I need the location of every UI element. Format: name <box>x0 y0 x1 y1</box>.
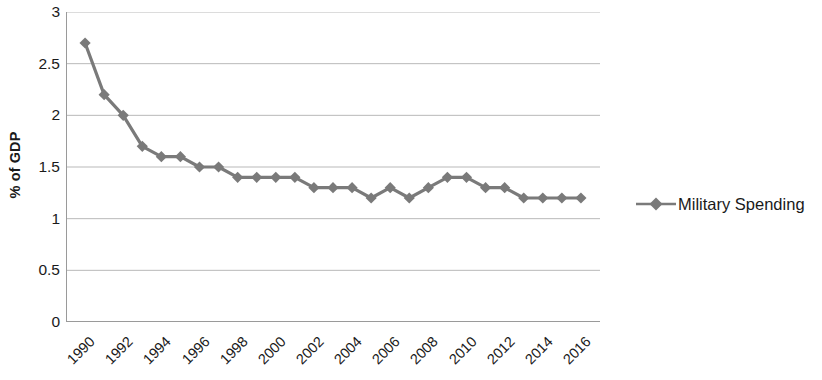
y-axis-tick-label: 0.5 <box>4 263 60 279</box>
legend-line-diamond-icon <box>634 196 678 212</box>
data-point-marker <box>556 192 567 203</box>
data-point-marker <box>79 37 90 48</box>
x-axis-tick-label: 1992 <box>103 334 136 367</box>
series-military-spending <box>79 37 586 203</box>
data-point-marker <box>537 192 548 203</box>
x-axis-tick-label: 1994 <box>141 334 174 367</box>
series-line <box>85 43 581 198</box>
data-point-marker <box>327 182 338 193</box>
y-axis-tick-label: 1 <box>4 211 60 227</box>
plot-area <box>66 12 600 322</box>
data-point-marker <box>251 172 262 183</box>
y-axis-tick-label: 3 <box>4 4 60 20</box>
x-axis-tick-label: 1990 <box>65 334 98 367</box>
x-axis-tick-label: 2004 <box>332 334 365 367</box>
x-axis-tick-label: 2000 <box>255 334 288 367</box>
legend-marker-military-spending <box>634 196 678 212</box>
legend: Military Spending <box>634 196 805 213</box>
x-axis-tick-label: 2008 <box>408 334 441 367</box>
x-axis-tick-labels: 1990199219941996199820002002200420062008… <box>66 322 626 380</box>
plot-canvas <box>66 12 600 322</box>
x-axis-tick-label: 2014 <box>522 334 555 367</box>
y-axis-tick-label: 2.5 <box>4 56 60 72</box>
data-point-marker <box>270 172 281 183</box>
x-axis-tick-label: 2010 <box>446 334 479 367</box>
x-axis-tick-label: 2006 <box>370 334 403 367</box>
x-axis-tick-label: 1996 <box>179 334 212 367</box>
x-axis-tick-label: 1998 <box>217 334 250 367</box>
x-axis-tick-label: 2016 <box>560 334 593 367</box>
military-spending-line-chart: % of GDP 00.511.522.53 19901992199419961… <box>0 0 822 380</box>
data-point-marker <box>575 192 586 203</box>
x-axis-tick-label: 2002 <box>293 334 326 367</box>
y-axis-tick-label: 0 <box>4 314 60 330</box>
x-axis-tick-label: 2012 <box>484 334 517 367</box>
y-axis-tick-labels: 00.511.522.53 <box>0 0 60 380</box>
y-axis-tick-label: 2 <box>4 108 60 124</box>
legend-label-military-spending: Military Spending <box>678 196 805 213</box>
gridlines <box>66 12 600 322</box>
y-axis-tick-label: 1.5 <box>4 159 60 175</box>
